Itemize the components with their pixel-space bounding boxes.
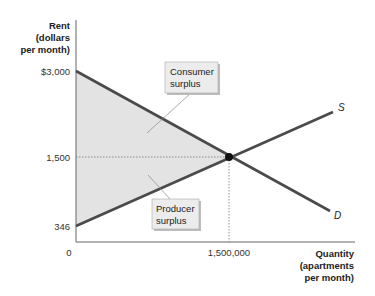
x-axis-title-line-2: (apartments [300, 260, 354, 271]
supply-label: S [338, 102, 345, 113]
producer-surplus-label-2: surplus [156, 215, 187, 226]
consumer-surplus-label-1: Consumer [170, 66, 214, 77]
x-tick-0: 0 [66, 247, 71, 258]
y-axis-title-line-2: (dollars [36, 32, 70, 43]
y-tick-3000: $3,000 [41, 66, 70, 77]
demand-label: D [334, 210, 341, 221]
consumer-surplus-label-2: surplus [170, 78, 201, 89]
producer-surplus-label-1: Producer [156, 203, 195, 214]
x-axis-title-line-1: Quantity [315, 248, 354, 259]
equilibrium-point [225, 153, 233, 161]
surplus-chart: S D Rent (dollars per month) $3,000 1,50… [0, 0, 375, 296]
x-tick-1500000: 1,500,000 [208, 247, 250, 258]
y-tick-346: 346 [54, 221, 70, 232]
y-axis-title-line-1: Rent [49, 20, 71, 31]
y-tick-1500: 1,500 [46, 152, 70, 163]
y-axis-title-line-3: per month) [20, 44, 70, 55]
x-axis-title-line-3: per month) [304, 272, 354, 283]
